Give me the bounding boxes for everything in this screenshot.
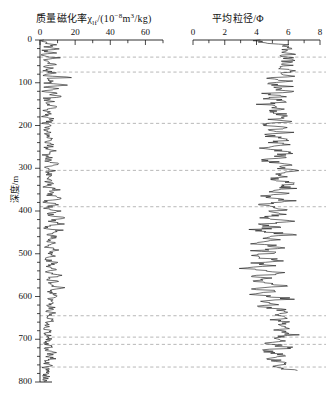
plot-canvas bbox=[0, 0, 330, 398]
figure-root: 质量磁化率χlf/(10−8m3/kg) 平均粒径/Φ 深度/m 0204060… bbox=[0, 0, 330, 398]
mean-grain-size-curve bbox=[239, 40, 299, 370]
magnetic-susceptibility-curve bbox=[41, 40, 71, 381]
